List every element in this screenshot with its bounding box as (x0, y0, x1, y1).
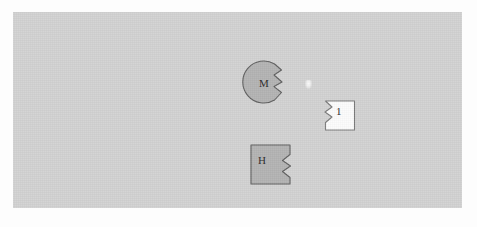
puzzle-piece-m[interactable]: M (240, 56, 296, 112)
puzzle-canvas[interactable]: M H 1 (13, 12, 462, 208)
piece-h-shape (238, 133, 294, 189)
piece-m-label: M (259, 78, 269, 89)
puzzle-piece-h[interactable]: H (238, 133, 294, 189)
highlight-speck-icon (305, 80, 312, 89)
piece-h-label: H (258, 155, 266, 166)
puzzle-piece-1[interactable]: 1 (312, 89, 360, 137)
screenshot-root: M H 1 (0, 0, 477, 227)
piece-1-label: 1 (336, 106, 342, 117)
